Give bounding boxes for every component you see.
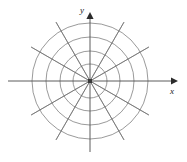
y-axis-label: y xyxy=(79,5,84,15)
polar-grid-canvas: x y xyxy=(0,0,187,162)
x-axis-arrow-icon xyxy=(171,77,178,84)
origin-marker xyxy=(88,79,92,83)
axes-group xyxy=(8,12,178,152)
origin-dot xyxy=(88,79,92,83)
x-axis-label: x xyxy=(169,86,174,96)
y-axis-arrow-icon xyxy=(86,12,93,19)
polar-grid-figure: x y xyxy=(0,0,187,162)
